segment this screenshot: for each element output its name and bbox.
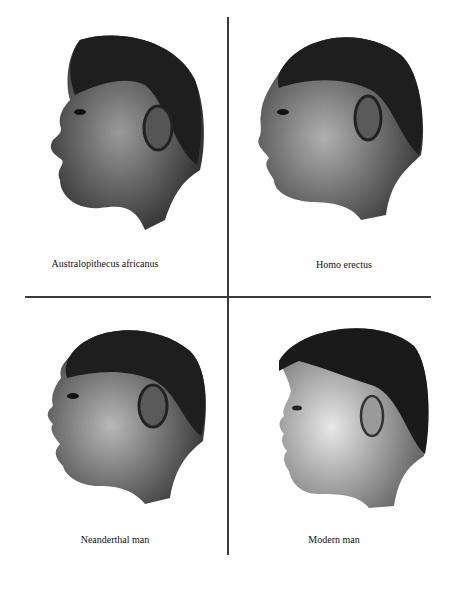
panel-modern: Modern man (229, 298, 453, 599)
panel-homo-erectus: Homo erectus (229, 0, 453, 296)
homo-erectus-head-illustration (241, 30, 426, 225)
neanderthal-head-illustration (25, 316, 210, 506)
modern-man-head-illustration (249, 316, 434, 511)
caption-neanderthal: Neanderthal man (75, 534, 155, 545)
panel-australopithecus: Australopithecus africanus (0, 0, 227, 296)
caption-australopithecus: Australopithecus africanus (45, 258, 165, 269)
australopithecus-head-illustration (25, 30, 210, 230)
caption-homo-erectus: Homo erectus (299, 259, 389, 270)
panel-neanderthal: Neanderthal man (0, 298, 227, 599)
caption-modern: Modern man (299, 534, 369, 545)
